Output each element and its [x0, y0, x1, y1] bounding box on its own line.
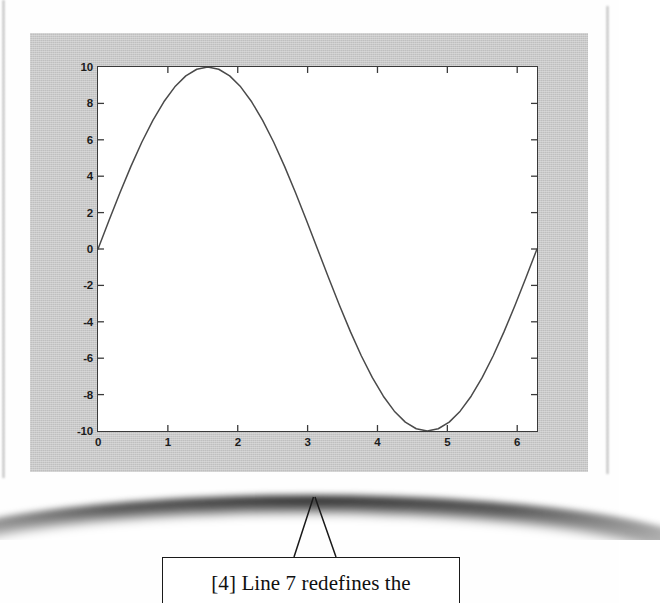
y-tick-label: 10 — [81, 61, 93, 73]
y-tick-label: 6 — [87, 134, 93, 146]
page-edge-line-right — [606, 6, 609, 474]
callout-text: [4] Line 7 redefines the — [163, 571, 459, 596]
callout-box: [4] Line 7 redefines the — [162, 557, 460, 603]
x-tick-label: 2 — [235, 436, 241, 448]
plot-canvas — [98, 67, 537, 431]
y-tick-label: -4 — [83, 316, 93, 328]
x-tick-label: 3 — [304, 436, 310, 448]
callout-pointer-line — [280, 495, 350, 559]
y-tick-label: -6 — [83, 352, 93, 364]
y-tick-label: -2 — [83, 279, 93, 291]
plot-axes: -10-8-6-4-20246810 0123456 — [97, 66, 538, 432]
matlab-figure-window: -10-8-6-4-20246810 0123456 — [30, 33, 588, 472]
y-tick-label: 4 — [87, 170, 93, 182]
x-tick-label: 4 — [374, 436, 380, 448]
x-tick-label: 0 — [95, 436, 101, 448]
y-tick-label: 8 — [87, 97, 93, 109]
y-tick-label: -10 — [77, 425, 93, 437]
page-edge-line-left — [2, 0, 5, 478]
data-series-line — [98, 67, 537, 431]
y-tick-label: 0 — [87, 243, 93, 255]
x-tick-label: 1 — [165, 436, 171, 448]
y-tick-label: 2 — [87, 207, 93, 219]
y-tick-label: -8 — [83, 389, 93, 401]
x-tick-label: 5 — [444, 436, 450, 448]
x-tick-label: 6 — [514, 436, 520, 448]
